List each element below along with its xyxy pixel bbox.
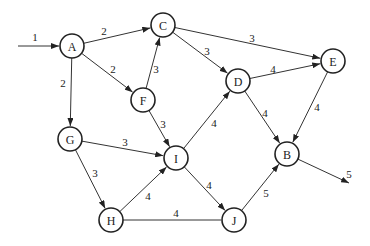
edge-weight-label: 2 (110, 63, 116, 75)
edge-weight-label: 3 (160, 118, 166, 130)
nodes-layer: ACEDFGIBHJ (58, 13, 345, 232)
edge-j-b (242, 164, 279, 211)
edge-weight-label: 4 (262, 107, 268, 119)
node-c: C (151, 13, 175, 37)
node-d: D (226, 69, 250, 93)
edge-b-sink (298, 159, 349, 183)
edge-c-d (173, 32, 228, 73)
edge-weight-label: 3 (153, 63, 159, 75)
edge-weight-label: 4 (145, 190, 151, 202)
edge-weight-label: 2 (60, 77, 66, 89)
edge-weight-label: 5 (263, 187, 269, 199)
node-h: H (99, 208, 123, 232)
edge-c-e (175, 27, 321, 58)
node-label: H (107, 214, 116, 228)
edge-weight-label: 4 (270, 63, 276, 75)
edge-a-g (70, 58, 71, 126)
edge-i-j (184, 167, 225, 211)
edge-weight-label: 5 (346, 168, 352, 180)
node-g: G (58, 127, 82, 151)
edge-weight-label: 3 (204, 45, 210, 57)
edge-weight-label: 2 (101, 25, 107, 37)
node-e: E (321, 49, 345, 73)
edge-weight-label: 4 (206, 179, 212, 191)
edge-weight-label: 4 (173, 207, 179, 219)
edge-weight-label: 4 (211, 117, 217, 129)
edge-d-e (250, 64, 321, 79)
node-label: F (140, 94, 147, 108)
node-label: C (159, 19, 167, 33)
node-label: E (329, 55, 336, 69)
node-f: F (131, 88, 155, 112)
edge-i-d (184, 91, 230, 149)
node-label: G (66, 133, 75, 147)
edge-weight-label: 3 (122, 136, 128, 148)
edge-weight-label: 1 (32, 31, 38, 43)
edge-h-i (120, 167, 167, 212)
edge-g-h (75, 150, 105, 209)
node-j: J (222, 208, 246, 232)
graph-svg: 1222333434443344455 ACEDFGIBHJ (0, 0, 370, 246)
node-a: A (60, 34, 84, 58)
network-diagram: 1222333434443344455 ACEDFGIBHJ (0, 0, 370, 246)
node-i: I (164, 146, 188, 170)
edge-f-i (149, 110, 170, 146)
node-label: I (174, 152, 178, 166)
edge-weight-label: 4 (314, 101, 320, 113)
node-label: J (232, 214, 237, 228)
edge-weight-label: 3 (249, 32, 255, 44)
node-label: A (68, 40, 77, 54)
edge-a-f (82, 53, 133, 92)
edge-e-b (293, 72, 328, 143)
node-b: B (275, 142, 299, 166)
edge-a-c (84, 28, 151, 43)
edge-weight-label: 3 (92, 167, 98, 179)
node-label: D (234, 75, 243, 89)
node-label: B (283, 148, 291, 162)
